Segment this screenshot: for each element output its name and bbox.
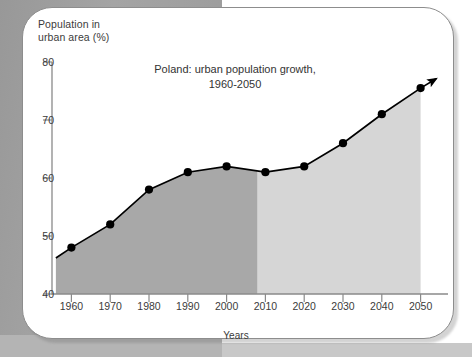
data-point-2030: [339, 139, 347, 147]
x-tick-label: 2040: [362, 300, 402, 312]
y-tick-label: 70: [26, 114, 54, 126]
x-tick-label: 2010: [245, 300, 285, 312]
data-point-1970: [106, 220, 114, 228]
data-point-2040: [378, 110, 386, 118]
data-point-1960: [67, 244, 75, 252]
x-axis-label: Years: [0, 330, 472, 343]
x-tick-label: 1990: [168, 300, 208, 312]
x-tick-label: 1980: [129, 300, 169, 312]
plot-fills: [56, 88, 421, 294]
y-tick-label: 60: [26, 172, 54, 184]
data-point-1990: [184, 168, 192, 176]
y-tick-label: 80: [26, 56, 54, 68]
x-tick-label: 2030: [323, 300, 363, 312]
data-point-1980: [145, 186, 153, 194]
x-tick-label: 2050: [401, 300, 441, 312]
y-tick-label: 40: [26, 288, 54, 300]
x-tick-label: 1960: [51, 300, 91, 312]
x-tick-label: 2000: [207, 300, 247, 312]
x-tick-label: 2020: [284, 300, 324, 312]
data-point-2000: [223, 162, 231, 170]
projected-area-fill: [258, 88, 421, 294]
chart-area: Population in urban area (%) Poland: urb…: [0, 0, 472, 357]
chart-page: Population in urban area (%) Poland: urb…: [0, 0, 472, 357]
data-point-2050: [417, 84, 425, 92]
data-point-2010: [261, 168, 269, 176]
x-tick-label: 1970: [90, 300, 130, 312]
y-tick-label: 50: [26, 230, 54, 242]
data-point-2020: [300, 162, 308, 170]
